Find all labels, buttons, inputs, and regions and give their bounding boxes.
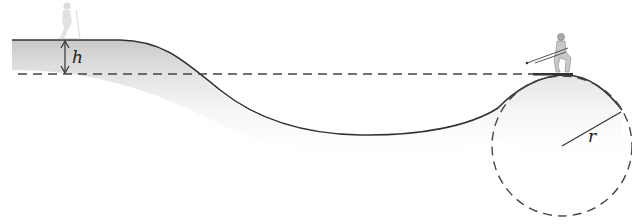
ground-shading: [12, 40, 622, 163]
skier-start-icon: [58, 3, 80, 40]
radius-label: r: [588, 126, 597, 146]
skier-top-icon: [526, 34, 573, 76]
ski-hill-diagram: h r: [0, 0, 632, 224]
height-label: h: [72, 47, 83, 67]
